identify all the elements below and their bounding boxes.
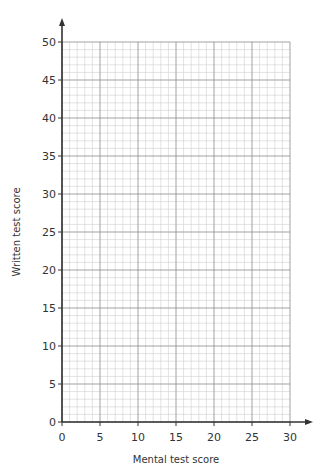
major-grid	[62, 42, 290, 422]
y-tick-label: 40	[42, 112, 56, 125]
y-tick-label: 5	[49, 378, 56, 391]
x-tick-label: 15	[169, 431, 183, 444]
x-tick-label: 25	[245, 431, 259, 444]
x-tick-label: 10	[131, 431, 145, 444]
ticks	[58, 42, 290, 426]
y-axis-arrow-icon	[59, 18, 65, 26]
x-axis-arrow-icon	[305, 419, 313, 425]
x-tick-label: 20	[207, 431, 221, 444]
chart: 05101520253005101520253035404550 Mental …	[0, 0, 331, 475]
x-tick-label: 5	[97, 431, 104, 444]
y-tick-label: 15	[42, 302, 56, 315]
y-tick-label: 10	[42, 340, 56, 353]
x-axis-label: Mental test score	[133, 454, 219, 465]
y-tick-label: 35	[42, 150, 56, 163]
tick-labels: 05101520253005101520253035404550	[42, 36, 297, 444]
x-tick-label: 30	[283, 431, 297, 444]
y-tick-label: 25	[42, 226, 56, 239]
y-tick-label: 45	[42, 74, 56, 87]
y-tick-label: 50	[42, 36, 56, 49]
y-tick-label: 30	[42, 188, 56, 201]
y-tick-label: 20	[42, 264, 56, 277]
y-tick-label: 0	[49, 416, 56, 429]
y-axis-label: Written test score	[11, 187, 22, 276]
x-tick-label: 0	[59, 431, 66, 444]
